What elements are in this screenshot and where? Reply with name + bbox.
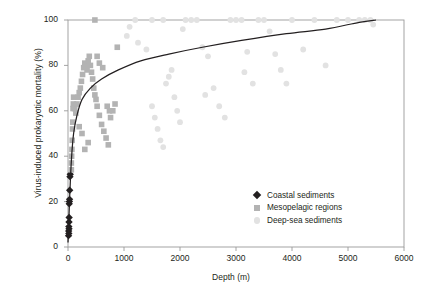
data-point-mesopelagic-regions (107, 108, 113, 114)
data-point-mesopelagic-regions (89, 69, 95, 75)
data-point-mesopelagic-regions (94, 54, 100, 60)
data-point-deep-sea-sediments (188, 17, 194, 23)
data-point-deep-sea-sediments (267, 28, 273, 34)
data-point-deep-sea-sediments (222, 115, 228, 121)
data-point-deep-sea-sediments (132, 17, 138, 23)
data-point-deep-sea-sediments (169, 67, 175, 73)
data-point-deep-sea-sediments (135, 40, 141, 46)
legend-label-coastal-sediments: Coastal sediments (267, 191, 334, 200)
data-point-deep-sea-sediments (124, 33, 130, 39)
data-point-deep-sea-sediments (172, 94, 178, 100)
data-point-mesopelagic-regions (101, 128, 107, 134)
data-point-deep-sea-sediments (312, 17, 318, 23)
data-point-deep-sea-sediments (144, 47, 150, 53)
data-point-deep-sea-sediments (216, 103, 222, 109)
data-point-deep-sea-sediments (284, 81, 290, 87)
data-point-deep-sea-sediments (205, 53, 211, 59)
data-point-mesopelagic-regions (82, 147, 88, 153)
data-point-deep-sea-sediments (160, 17, 166, 23)
data-point-deep-sea-sediments (244, 49, 250, 55)
data-point-mesopelagic-regions (99, 122, 105, 128)
data-point-deep-sea-sediments (345, 17, 351, 23)
data-point-mesopelagic-regions (76, 124, 82, 130)
data-point-deep-sea-sediments (127, 24, 133, 30)
data-point-deep-sea-sediments (183, 17, 189, 23)
data-point-deep-sea-sediments (323, 63, 329, 69)
data-point-deep-sea-sediments (202, 92, 208, 98)
data-point-deep-sea-sediments (334, 17, 340, 23)
data-point-mesopelagic-regions (97, 113, 103, 119)
data-point-mesopelagic-regions (108, 115, 114, 121)
data-point-deep-sea-sediments (152, 115, 158, 121)
data-point-deep-sea-sediments (149, 17, 155, 23)
legend-item-coastal-sediments[interactable]: Coastal sediments (252, 189, 342, 202)
data-point-deep-sea-sediments (261, 17, 267, 23)
data-point-deep-sea-sediments (289, 17, 295, 23)
data-point-deep-sea-sediments (155, 126, 161, 132)
data-point-deep-sea-sediments (233, 17, 239, 23)
data-point-mesopelagic-regions (112, 101, 118, 107)
data-point-mesopelagic-regions (93, 97, 99, 103)
chart-legend: Coastal sediments Mesopelagic regions De… (252, 189, 342, 227)
data-point-deep-sea-sediments (149, 103, 155, 109)
legend-label-mesopelagic-regions: Mesopelagic regions (267, 203, 342, 212)
data-point-mesopelagic-regions (103, 135, 109, 141)
data-point-deep-sea-sediments (272, 51, 278, 57)
scatter-plot-figure: Virus-induced prokaryotic mortality (%) … (0, 0, 434, 293)
data-point-mesopelagic-regions (94, 103, 100, 109)
data-point-deep-sea-sediments (370, 22, 376, 28)
data-point-deep-sea-sediments (250, 81, 256, 87)
data-point-deep-sea-sediments (177, 119, 183, 125)
data-point-mesopelagic-regions (88, 63, 94, 69)
data-point-deep-sea-sediments (256, 17, 262, 23)
data-point-mesopelagic-regions (79, 78, 85, 84)
legend-item-deep-sea-sediments[interactable]: Deep-sea sediments (252, 214, 342, 227)
data-point-deep-sea-sediments (278, 67, 284, 73)
data-point-deep-sea-sediments (228, 17, 234, 23)
data-point-mesopelagic-regions (92, 17, 98, 23)
data-point-deep-sea-sediments (180, 26, 186, 32)
data-point-mesopelagic-regions (78, 85, 84, 91)
data-point-mesopelagic-regions (106, 142, 112, 148)
data-point-deep-sea-sediments (174, 108, 180, 114)
data-point-mesopelagic-regions (85, 140, 91, 146)
data-point-deep-sea-sediments (158, 137, 164, 143)
plot-frame (68, 20, 404, 247)
data-point-deep-sea-sediments (166, 74, 172, 80)
data-point-deep-sea-sediments (160, 144, 166, 150)
data-point-mesopelagic-regions (114, 44, 120, 50)
data-point-deep-sea-sediments (163, 81, 169, 87)
plot-canvas (0, 0, 434, 293)
data-point-deep-sea-sediments (211, 85, 217, 91)
data-point-mesopelagic-regions (90, 76, 96, 82)
data-point-mesopelagic-regions (79, 131, 85, 137)
legend-label-deep-sea-sediments: Deep-sea sediments (267, 216, 342, 225)
data-point-deep-sea-sediments (242, 69, 248, 75)
legend-item-mesopelagic-regions[interactable]: Mesopelagic regions (252, 202, 342, 215)
square-marker-icon (252, 202, 263, 213)
data-point-deep-sea-sediments (194, 17, 200, 23)
data-point-mesopelagic-regions (86, 54, 92, 60)
data-point-deep-sea-sediments (300, 47, 306, 53)
circle-marker-icon (252, 215, 263, 226)
data-point-deep-sea-sediments (239, 17, 245, 23)
data-point-mesopelagic-regions (100, 65, 106, 71)
diamond-marker-icon (252, 190, 263, 201)
